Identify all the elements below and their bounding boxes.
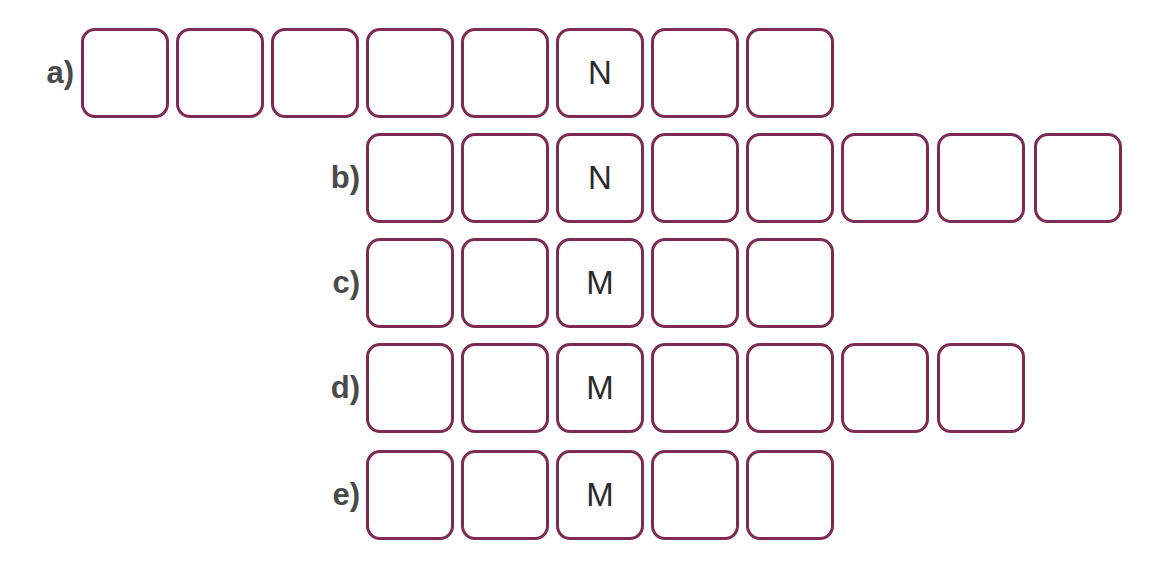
letter-box-a-5[interactable] — [461, 28, 549, 118]
letter-box-e-3-given: M — [556, 450, 644, 540]
letter-box-d-1[interactable] — [366, 343, 454, 433]
letter-box-a-3[interactable] — [271, 28, 359, 118]
letter-box-b-5[interactable] — [746, 133, 834, 223]
letter-box-d-5[interactable] — [746, 343, 834, 433]
row-label-d: d) — [320, 343, 360, 433]
letter-box-e-1[interactable] — [366, 450, 454, 540]
letter-box-a-8[interactable] — [746, 28, 834, 118]
row-label-a: a) — [34, 28, 74, 118]
letter-box-b-4[interactable] — [651, 133, 739, 223]
puzzle-row-d: d) M — [0, 343, 1030, 433]
letter-box-b-7[interactable] — [937, 133, 1025, 223]
letter-box-d-7[interactable] — [937, 343, 1025, 433]
letter-box-a-1[interactable] — [81, 28, 169, 118]
row-label-b: b) — [320, 133, 360, 223]
letter-box-a-7[interactable] — [651, 28, 739, 118]
letter-box-e-4[interactable] — [651, 450, 739, 540]
puzzle-row-e: e) M — [0, 450, 840, 540]
letter-box-b-3-given: N — [556, 133, 644, 223]
puzzle-row-a: a) N — [0, 28, 840, 118]
letter-box-a-6-given: N — [556, 28, 644, 118]
letter-box-b-6[interactable] — [841, 133, 929, 223]
letter-box-c-1[interactable] — [366, 238, 454, 328]
letter-box-d-2[interactable] — [461, 343, 549, 433]
letter-box-c-3-given: M — [556, 238, 644, 328]
row-label-e: e) — [320, 450, 360, 540]
letter-box-e-2[interactable] — [461, 450, 549, 540]
letter-box-a-4[interactable] — [366, 28, 454, 118]
letter-box-c-5[interactable] — [746, 238, 834, 328]
letter-box-b-8[interactable] — [1034, 133, 1122, 223]
letter-box-a-2[interactable] — [176, 28, 264, 118]
puzzle-row-c: c) M — [0, 238, 840, 328]
letter-box-d-6[interactable] — [841, 343, 929, 433]
letter-box-c-4[interactable] — [651, 238, 739, 328]
letter-box-e-5[interactable] — [746, 450, 834, 540]
letter-box-d-4[interactable] — [651, 343, 739, 433]
puzzle-row-b: b) N — [0, 133, 1130, 223]
letter-box-b-2[interactable] — [461, 133, 549, 223]
letter-box-b-1[interactable] — [366, 133, 454, 223]
letter-box-d-3-given: M — [556, 343, 644, 433]
letter-box-c-2[interactable] — [461, 238, 549, 328]
row-label-c: c) — [320, 238, 360, 328]
